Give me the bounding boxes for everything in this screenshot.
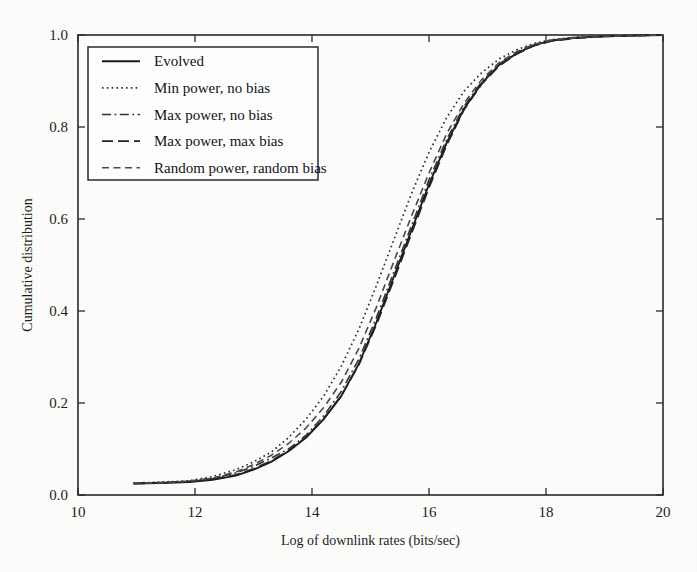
cumulative-distribution-chart: 1012141618200.00.20.40.60.81.0Log of dow… [0,0,697,572]
x-axis-tick-label: 14 [305,504,321,520]
x-axis-tick-label: 10 [71,504,86,520]
x-axis-tick-label: 16 [422,504,438,520]
y-axis-tick-label: 0.2 [49,395,68,411]
x-axis-title: Log of downlink rates (bits/sec) [281,533,460,549]
legend-label: Random power, random bias [154,160,327,176]
y-axis-tick-label: 0.6 [49,211,68,227]
legend-label: Min power, no bias [154,80,270,96]
y-axis-title: Cumulative distribution [20,198,35,331]
y-axis-tick-label: 0.4 [49,303,68,319]
legend-label: Evolved [154,53,204,69]
y-axis-tick-label: 0.8 [49,119,68,135]
legend-label: Max power, max bias [154,133,284,149]
y-axis-tick-label: 1.0 [49,27,68,43]
legend-label: Max power, no bias [154,107,273,123]
x-axis-tick-label: 12 [188,504,203,520]
x-axis-tick-label: 18 [539,504,554,520]
x-axis-tick-label: 20 [656,504,671,520]
figure-canvas: 1012141618200.00.20.40.60.81.0Log of dow… [0,0,697,572]
y-axis-tick-label: 0.0 [49,487,68,503]
